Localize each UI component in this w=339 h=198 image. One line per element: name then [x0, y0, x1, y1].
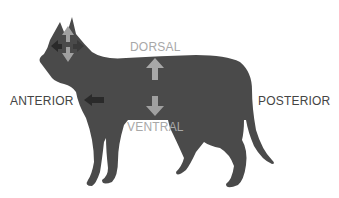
dorsal-label: DORSAL [130, 40, 181, 54]
anterior-label: ANTERIOR [10, 94, 74, 108]
anatomy-diagram: DORSAL VENTRAL ANTERIOR POSTERIOR [0, 0, 339, 198]
posterior-label: POSTERIOR [258, 94, 330, 108]
ventral-label: VENTRAL [127, 120, 184, 134]
